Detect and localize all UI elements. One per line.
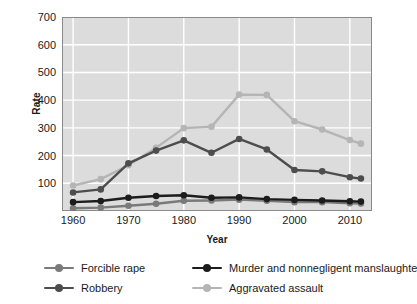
data-point bbox=[70, 182, 77, 189]
data-point bbox=[264, 196, 271, 203]
y-tick-100: 100 bbox=[38, 178, 56, 189]
data-point bbox=[291, 167, 298, 174]
data-point bbox=[347, 137, 354, 144]
data-point bbox=[180, 125, 187, 132]
data-point bbox=[153, 200, 160, 207]
legend-dot bbox=[203, 284, 211, 292]
data-point bbox=[319, 168, 326, 175]
data-point bbox=[125, 160, 132, 167]
legend-label: Murder and nonnegligent manslaughter bbox=[229, 262, 417, 274]
x-tick-1970: 1970 bbox=[116, 214, 140, 226]
x-tick-1990: 1990 bbox=[227, 214, 251, 226]
data-point bbox=[125, 194, 132, 201]
data-point bbox=[97, 186, 104, 193]
legend-marker-icon bbox=[192, 261, 222, 275]
data-point bbox=[264, 146, 271, 153]
y-tick-300: 300 bbox=[38, 122, 56, 133]
data-point bbox=[97, 204, 104, 211]
data-point bbox=[208, 123, 215, 130]
x-axis-tick-labels: 196019701980199020002010 bbox=[62, 214, 372, 230]
y-tick-600: 600 bbox=[38, 39, 56, 50]
data-point bbox=[236, 194, 243, 201]
data-point bbox=[358, 198, 365, 205]
data-point bbox=[153, 193, 160, 200]
data-point bbox=[180, 192, 187, 199]
data-point bbox=[236, 91, 243, 98]
legend-dot bbox=[55, 284, 63, 292]
legend-item[interactable]: Aggravated assault bbox=[192, 280, 323, 296]
chart-legend: Forcible rapeMurder and nonnegligent man… bbox=[44, 260, 416, 300]
y-tick-500: 500 bbox=[38, 67, 56, 78]
legend-item[interactable]: Forcible rape bbox=[44, 260, 145, 276]
legend-item[interactable]: Murder and nonnegligent manslaughter bbox=[192, 260, 417, 276]
legend-item[interactable]: Robbery bbox=[44, 280, 123, 296]
data-point bbox=[180, 137, 187, 144]
legend-dot bbox=[55, 264, 63, 272]
chart-figure: Rate 700600500400300200100 1960197019801… bbox=[0, 0, 417, 304]
line-chart-svg bbox=[62, 17, 372, 211]
data-point bbox=[291, 118, 298, 125]
data-point bbox=[358, 140, 365, 147]
data-point bbox=[358, 175, 365, 182]
x-tick-2010: 2010 bbox=[338, 214, 362, 226]
data-point bbox=[291, 197, 298, 204]
legend-dot bbox=[203, 264, 211, 272]
data-point bbox=[347, 198, 354, 205]
legend-label: Robbery bbox=[81, 282, 123, 294]
plot-area bbox=[62, 17, 372, 211]
data-point bbox=[208, 150, 215, 157]
y-axis-tick-labels: 700600500400300200100 bbox=[18, 17, 60, 211]
data-point bbox=[236, 136, 243, 143]
x-tick-1980: 1980 bbox=[172, 214, 196, 226]
data-point bbox=[347, 174, 354, 181]
data-point bbox=[97, 198, 104, 205]
data-point bbox=[97, 176, 104, 183]
data-point bbox=[319, 126, 326, 133]
y-tick-400: 400 bbox=[38, 95, 56, 106]
x-tick-2000: 2000 bbox=[282, 214, 306, 226]
data-point bbox=[264, 92, 271, 99]
data-point bbox=[319, 197, 326, 204]
data-point bbox=[70, 199, 77, 206]
y-tick-200: 200 bbox=[38, 150, 56, 161]
data-point bbox=[153, 147, 160, 154]
legend-marker-icon bbox=[44, 261, 74, 275]
data-point bbox=[208, 194, 215, 201]
legend-label: Aggravated assault bbox=[229, 282, 323, 294]
y-tick-700: 700 bbox=[38, 12, 56, 23]
legend-marker-icon bbox=[192, 281, 222, 295]
x-tick-1960: 1960 bbox=[61, 214, 85, 226]
data-point bbox=[70, 189, 77, 196]
legend-marker-icon bbox=[44, 281, 74, 295]
x-axis-title: Year bbox=[62, 234, 372, 245]
data-point bbox=[125, 202, 132, 209]
legend-label: Forcible rape bbox=[81, 262, 145, 274]
